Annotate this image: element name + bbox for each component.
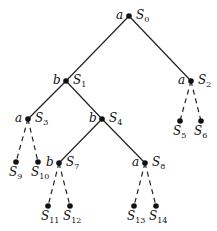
edge-S0-S2 xyxy=(129,16,191,81)
edge-S3-S9 xyxy=(16,119,28,162)
node-S11-dot-icon xyxy=(45,203,51,209)
node-S4-dot-icon xyxy=(99,116,105,122)
node-S6-dot-icon xyxy=(198,118,204,124)
node-S5-dot-icon xyxy=(177,118,183,124)
node-label-S4: S4 xyxy=(109,111,122,127)
edge-S2-S5 xyxy=(180,81,191,121)
edge-S2-S6 xyxy=(191,81,201,121)
player-label-S0: a xyxy=(116,8,123,22)
node-label-S13: S13 xyxy=(127,209,145,225)
node-S2-dot-icon xyxy=(188,78,194,84)
node-S3-dot-icon xyxy=(25,116,31,122)
edge-S0-S1 xyxy=(66,16,129,81)
node-label-S14: S14 xyxy=(149,209,167,225)
player-label-S8: a xyxy=(132,155,139,169)
node-S9-dot-icon xyxy=(13,159,19,165)
node-label-S9: S9 xyxy=(9,165,22,181)
node-S7-dot-icon xyxy=(56,160,62,166)
player-label-S2: a xyxy=(178,73,185,87)
node-label-S8: S8 xyxy=(152,155,165,171)
node-label-S2: S2 xyxy=(198,73,211,89)
player-label-S7: b xyxy=(46,155,54,169)
node-S1-dot-icon xyxy=(63,78,69,84)
node-S10-dot-icon xyxy=(35,159,41,165)
edge-S8-S14 xyxy=(145,163,156,206)
node-S14-dot-icon xyxy=(153,203,159,209)
node-label-S11: S11 xyxy=(41,209,59,225)
tree-svg: S0aS1bS2aS3aS4bS5S6S7bS8aS9S10S11S12S13S… xyxy=(0,0,217,231)
node-label-S7: S7 xyxy=(66,155,79,171)
node-label-S5: S5 xyxy=(173,124,186,140)
edge-S7-S11 xyxy=(48,163,59,206)
edge-S7-S12 xyxy=(59,163,70,206)
player-label-S1: b xyxy=(53,73,61,87)
node-label-S0: S0 xyxy=(136,8,149,24)
node-label-S1: S1 xyxy=(73,73,86,89)
node-S13-dot-icon xyxy=(131,203,137,209)
game-tree-diagram: S0aS1bS2aS3aS4bS5S6S7bS8aS9S10S11S12S13S… xyxy=(0,0,217,231)
edge-S8-S13 xyxy=(134,163,145,206)
node-S8-dot-icon xyxy=(142,160,148,166)
player-label-S3: a xyxy=(15,111,22,125)
node-label-S6: S6 xyxy=(194,124,207,140)
player-label-S4: b xyxy=(89,111,97,125)
node-label-S3: S3 xyxy=(35,111,48,127)
node-S12-dot-icon xyxy=(67,203,73,209)
edge-S3-S10 xyxy=(28,119,38,162)
node-S0-dot-icon xyxy=(126,13,132,19)
node-label-S12: S12 xyxy=(63,209,81,225)
